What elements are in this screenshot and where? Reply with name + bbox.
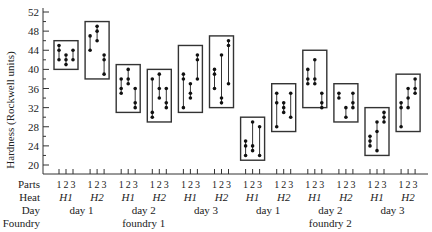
data-point xyxy=(95,25,99,29)
part-label: 2 xyxy=(64,179,69,190)
data-point xyxy=(313,82,317,86)
data-point xyxy=(71,48,75,52)
data-point xyxy=(189,82,193,86)
data-point xyxy=(151,111,155,115)
part-label: 3 xyxy=(226,179,231,190)
y-tick-label: 28 xyxy=(28,121,40,133)
data-point xyxy=(289,115,293,119)
data-point xyxy=(196,58,200,62)
y-tick-label: 52 xyxy=(28,6,39,18)
x-axis xyxy=(43,169,428,174)
data-point xyxy=(213,72,217,76)
data-point xyxy=(382,111,386,115)
data-point xyxy=(406,106,410,110)
data-point xyxy=(88,34,92,38)
data-point xyxy=(151,115,155,119)
data-point xyxy=(182,77,186,81)
data-point xyxy=(251,120,255,124)
data-point xyxy=(151,77,155,81)
heat-label: H2 xyxy=(89,191,104,203)
group-6 xyxy=(210,36,234,108)
group-11 xyxy=(365,108,389,156)
group-3 xyxy=(116,65,140,113)
data-point xyxy=(244,139,248,143)
part-label: 3 xyxy=(102,179,107,190)
data-point xyxy=(368,139,372,143)
data-point xyxy=(196,53,200,57)
data-point xyxy=(399,106,403,110)
data-point xyxy=(220,53,224,57)
data-point xyxy=(289,91,293,95)
group-5 xyxy=(178,45,202,112)
day-label: day 2 xyxy=(132,204,156,216)
part-label: 2 xyxy=(312,179,317,190)
data-point xyxy=(165,106,169,110)
part-label: 2 xyxy=(188,179,193,190)
data-point xyxy=(306,82,310,86)
part-label: 2 xyxy=(157,179,162,190)
data-point xyxy=(313,58,317,62)
y-tick-label: 20 xyxy=(28,159,40,171)
group-7 xyxy=(241,117,265,160)
plot-groups xyxy=(54,22,420,161)
heat-label: H2 xyxy=(152,191,167,203)
heat-label: H2 xyxy=(400,191,415,203)
data-point xyxy=(413,91,417,95)
data-point xyxy=(182,106,186,110)
heat-label: H1 xyxy=(369,191,383,203)
part-label: 3 xyxy=(133,179,138,190)
heat-label: H2 xyxy=(276,191,291,203)
data-point xyxy=(64,58,68,62)
group-9 xyxy=(303,50,327,109)
data-point xyxy=(102,53,106,57)
data-point xyxy=(406,96,410,100)
heat-label: H1 xyxy=(58,191,72,203)
data-point xyxy=(244,144,248,148)
day-label: day 1 xyxy=(256,204,280,216)
data-point xyxy=(158,87,162,91)
data-point xyxy=(158,72,162,76)
part-label: 3 xyxy=(288,179,293,190)
data-point xyxy=(351,101,355,105)
data-point xyxy=(57,48,61,52)
part-label: 3 xyxy=(195,179,200,190)
data-point xyxy=(406,87,410,91)
row-label-heat: Heat xyxy=(19,191,40,203)
data-point xyxy=(413,87,417,91)
part-label: 2 xyxy=(406,179,411,190)
row-label-parts: Parts xyxy=(18,178,40,190)
heat-label: H2 xyxy=(338,191,353,203)
part-label: 1 xyxy=(150,179,155,190)
part-label: 1 xyxy=(57,179,62,190)
data-point xyxy=(258,154,262,158)
part-label: 1 xyxy=(119,179,124,190)
data-point xyxy=(220,101,224,105)
data-point xyxy=(165,87,169,91)
y-tick-label: 44 xyxy=(28,44,40,56)
data-point xyxy=(126,77,130,81)
data-point xyxy=(351,106,355,110)
data-point xyxy=(133,106,137,110)
part-label: 1 xyxy=(274,179,279,190)
data-point xyxy=(337,96,341,100)
data-point xyxy=(133,87,137,91)
data-point xyxy=(57,44,61,48)
part-label: 3 xyxy=(350,179,355,190)
data-point xyxy=(189,96,193,100)
y-tick-label: 40 xyxy=(28,63,40,75)
data-point xyxy=(102,72,106,76)
y-tick-label: 24 xyxy=(28,140,40,152)
part-label: 2 xyxy=(250,179,255,190)
data-point xyxy=(119,91,123,95)
data-point xyxy=(95,39,99,43)
part-label: 1 xyxy=(399,179,404,190)
data-point xyxy=(320,91,324,95)
data-point xyxy=(158,96,162,100)
data-point xyxy=(282,106,286,110)
group-1 xyxy=(54,41,78,70)
data-point xyxy=(251,149,255,153)
day-label: day 2 xyxy=(318,204,342,216)
data-point xyxy=(213,68,217,72)
heat-label: H1 xyxy=(183,191,197,203)
data-point xyxy=(57,58,61,62)
